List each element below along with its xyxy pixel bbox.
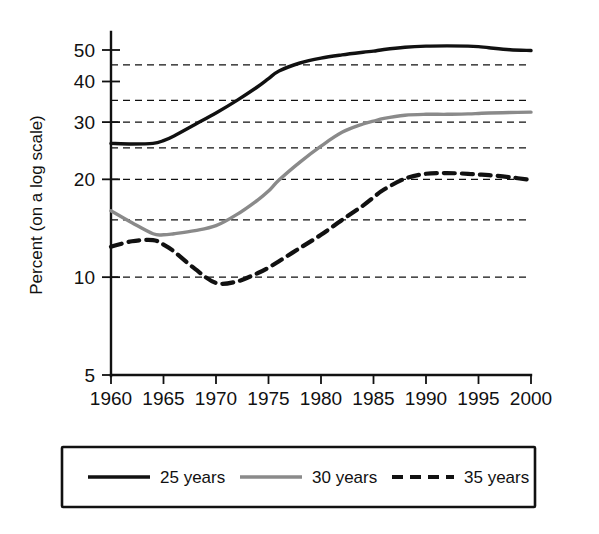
- y-tick-label: 40: [74, 71, 95, 92]
- x-tick-label: 1990: [405, 388, 447, 409]
- y-tick-label: 50: [74, 40, 95, 61]
- y-tick-label: 5: [84, 365, 95, 386]
- y-axis-title: Percent (on a log scale): [27, 115, 46, 295]
- x-tick-label: 1995: [457, 388, 499, 409]
- legend: 25 years30 years35 years: [62, 447, 535, 507]
- chart-figure: 51020304050 1960196519701975198019851990…: [0, 0, 599, 534]
- x-tick-label: 1985: [352, 388, 394, 409]
- x-tick-label: 1970: [195, 388, 237, 409]
- legend-label-35-years: 35 years: [464, 468, 529, 487]
- y-axis-title-text: Percent (on a log scale): [27, 115, 46, 295]
- y-tick-label: 30: [74, 112, 95, 133]
- line-chart: 51020304050 1960196519701975198019851990…: [0, 0, 599, 534]
- x-tick-label: 2000: [510, 388, 552, 409]
- y-tick-label: 10: [74, 267, 95, 288]
- legend-label-25-years: 25 years: [160, 468, 225, 487]
- x-tick-label: 1965: [142, 388, 184, 409]
- y-tick-label: 20: [74, 169, 95, 190]
- x-tick-label: 1980: [300, 388, 342, 409]
- x-tick-label: 1975: [247, 388, 289, 409]
- legend-label-30-years: 30 years: [312, 468, 377, 487]
- x-tick-label: 1960: [90, 388, 132, 409]
